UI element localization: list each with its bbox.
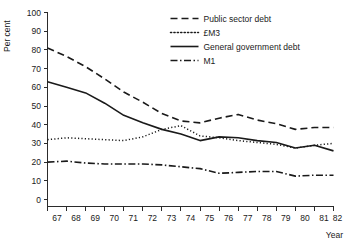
y-tick-label: 60 [32, 82, 42, 92]
x-tick-label: 82 [333, 213, 343, 223]
x-tick-label: 68 [71, 213, 81, 223]
legend-label: £M3 [204, 28, 221, 38]
y-tick-label: 80 [32, 45, 42, 55]
y-tick-label: 10 [32, 176, 42, 186]
chart-legend: Public sector debt£M3General government … [171, 14, 301, 66]
x-tick-label: 81 [319, 213, 329, 223]
x-tick-label: 80 [300, 213, 310, 223]
y-tick-label: 70 [32, 64, 42, 74]
legend-label: Public sector debt [204, 14, 272, 24]
x-tick-label: 74 [186, 213, 196, 223]
x-tick-label: 72 [148, 213, 158, 223]
y-tick-label: 50 [32, 101, 42, 111]
y-tick-label: 20 [32, 157, 42, 167]
x-tick-label: 71 [129, 213, 139, 223]
y-tick-label: 0 [36, 195, 41, 205]
x-tick-label: 67 [52, 213, 62, 223]
y-axis-title: Per cent [2, 20, 12, 52]
y-tick-label: 90 [32, 26, 42, 36]
x-tick-label: 77 [243, 213, 253, 223]
x-axis-group: 67686970717273747576777879808182 [48, 207, 343, 223]
y-tick-label: 30 [32, 138, 42, 148]
x-tick-label: 69 [90, 213, 100, 223]
series-line-general-government-debt [48, 82, 334, 151]
x-tick-label: 75 [205, 213, 215, 223]
chart-container: 0102030405060708090100 67686970717273747… [0, 0, 349, 243]
x-axis-ticks: 67686970717273747576777879808182 [48, 207, 343, 223]
y-axis-ticks: 0102030405060708090100 [27, 8, 48, 207]
x-axis-title: Year [326, 230, 343, 240]
x-tick-label: 73 [167, 213, 177, 223]
x-tick-label: 79 [281, 213, 291, 223]
y-axis-group: 0102030405060708090100 [27, 8, 48, 207]
series-line-m1 [48, 161, 334, 176]
series-lines-group [48, 48, 334, 176]
legend-label: M1 [204, 56, 216, 66]
line-chart-figure: 0102030405060708090100 67686970717273747… [0, 0, 349, 243]
legend-label: General government debt [204, 42, 301, 52]
x-tick-label: 76 [224, 213, 234, 223]
y-tick-label: 100 [27, 8, 41, 18]
x-tick-label: 70 [109, 213, 119, 223]
y-tick-label: 40 [32, 120, 42, 130]
x-tick-label: 78 [262, 213, 272, 223]
